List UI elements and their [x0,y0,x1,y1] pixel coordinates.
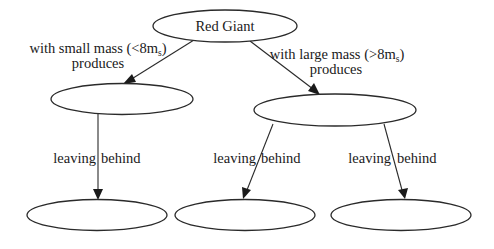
stellar-evolution-diagram: Red Giant with small mass (<8ms) produce… [0,0,494,249]
edge-label-behind-1: behind [101,150,141,166]
edge-label-small-mass-produces: produces [72,55,125,71]
edge-label-leaving-1: leaving [53,150,96,166]
node-large-mass-remnant-2 [331,200,471,231]
edge-label-behind-2: behind [261,150,301,166]
edge-label-leaving-3: leaving [348,150,391,166]
node-small-mass-remnant [27,200,167,231]
node-small-mass-product [51,84,193,115]
edge-label-large-mass-produces: produces [310,61,363,77]
arrowhead-icon [398,188,408,199]
node-large-mass-remnant-1 [175,200,315,231]
edge-label-behind-3: behind [397,150,437,166]
node-red-giant-label: Red Giant [195,18,254,34]
arrowhead-icon [123,74,136,84]
node-large-mass-product [254,94,416,126]
arrowhead-icon [93,189,103,200]
edge-label-leaving-2: leaving [213,150,256,166]
arrowhead-icon [308,83,320,95]
arrowhead-icon [242,187,251,199]
